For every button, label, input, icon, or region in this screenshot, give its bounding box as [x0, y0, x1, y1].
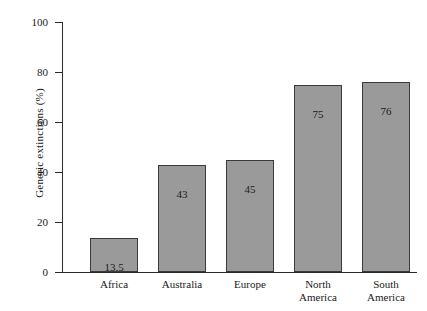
bar-value-label: 75 — [288, 109, 348, 120]
y-axis-line — [62, 22, 63, 273]
y-tick-label: 80 — [8, 67, 48, 78]
bar — [226, 160, 274, 273]
y-tick-mark — [55, 272, 62, 273]
y-tick-label: 100 — [8, 17, 48, 28]
bar-value-label: 13.5 — [84, 262, 144, 273]
y-tick-mark — [55, 22, 62, 23]
y-tick-label: 60 — [8, 117, 48, 128]
bar — [158, 165, 206, 273]
y-tick-label: 40 — [8, 167, 48, 178]
y-tick-mark — [55, 172, 62, 173]
x-axis-label-line: America — [341, 291, 427, 304]
x-axis-label: SouthAmerica — [341, 278, 427, 303]
y-axis-title: Generic extinctions (%) — [30, 18, 48, 268]
y-tick-mark — [55, 72, 62, 73]
bar-chart: Generic extinctions (%) 020406080100 13.… — [0, 0, 427, 311]
bar-value-label: 45 — [220, 184, 280, 195]
y-tick-mark — [55, 122, 62, 123]
y-tick-mark — [55, 222, 62, 223]
x-axis-label-line: South — [341, 278, 427, 291]
bar-value-label: 43 — [152, 189, 212, 200]
y-tick-label: 0 — [8, 267, 48, 278]
bar-value-label: 76 — [356, 106, 416, 117]
y-tick-label: 20 — [8, 217, 48, 228]
